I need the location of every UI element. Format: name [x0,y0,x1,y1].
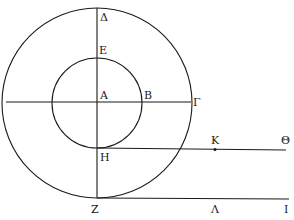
label-zeta: Ζ [91,203,99,216]
geometry-diagram: Δ Ε Α Β Γ Η Ζ Κ Θ Λ Ι [0,0,294,220]
label-epsilon: Ε [99,44,107,57]
tangent-line-zeta-iota [97,198,289,199]
tangent-line-eta-theta [97,148,286,150]
label-eta: Η [100,151,110,164]
label-lambda: Λ [210,203,220,216]
label-iota: Ι [284,203,288,216]
label-gamma: Γ [193,96,201,109]
label-alpha: Α [99,89,109,102]
point-kappa-marker [214,148,217,151]
label-beta: Β [144,89,152,102]
label-delta: Δ [100,11,108,24]
label-kappa: Κ [211,134,220,147]
label-theta: Θ [281,134,290,147]
